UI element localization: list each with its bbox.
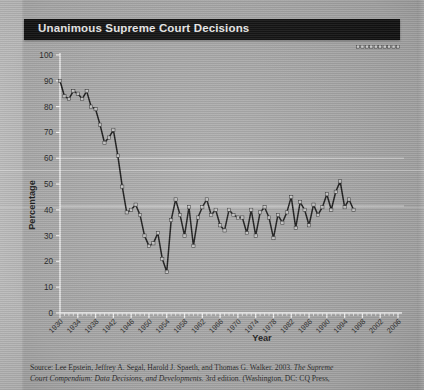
y-tick-label: 80 [44,103,54,112]
x-tick-label: 1990 [314,317,332,335]
source-line-1-italic: The Supreme [294,363,334,372]
page-right-edge [417,0,424,390]
source-line-2: Court Compendium: Data Decisions, and De… [30,374,402,385]
x-tick-label: 1938 [82,317,100,335]
x-tick-label: 1934 [65,317,83,335]
x-tick-label: 1982 [278,317,296,335]
x-tick-label: 2002 [367,317,385,335]
x-tick-label: 1954 [154,317,172,335]
figure-title-bar: Unanimous Supreme Court Decisions [24,19,400,40]
x-axis-tick-labels: 1930193419381942194619501954195819621966… [47,317,403,335]
chart-axes [60,53,402,313]
y-tick-label: 40 [44,206,54,215]
x-tick-label: 1986 [296,317,314,335]
source-line-1-text: Source: Lee Epstein, Jeffrey A. Segal, H… [30,363,294,372]
x-tick-label: 1946 [118,317,136,335]
x-tick-label: 2006 [385,317,403,335]
y-tick-label: 100 [39,51,53,60]
x-tick-label: 1950 [136,317,154,335]
source-line-2-text: 3rd edition. (Washington, DC: CQ Press, [204,374,330,383]
y-axis-tick-labels: 0102030405060708090100 [39,51,53,318]
y-tick-label: 70 [44,128,54,137]
x-axis-title: Year [252,333,272,343]
source-line-1: Source: Lee Epstein, Jeffrey A. Segal, H… [30,363,402,374]
x-tick-label: 1958 [171,317,189,335]
x-tick-label: 1962 [189,317,207,335]
x-tick-label: 1998 [349,317,367,335]
y-axis-title: Percentage [27,180,37,230]
data-point-markers [58,45,399,273]
y-tick-label: 60 [44,154,54,163]
source-line-2-italic: Court Compendium: Data Decisions, and De… [30,374,204,383]
figure-title: Unanimous Supreme Court Decisions [38,22,249,34]
x-tick-label: 1942 [100,317,118,335]
y-tick-label: 0 [48,309,53,318]
y-tick-label: 30 [44,232,54,241]
x-tick-label: 1994 [332,317,350,335]
y-tick-label: 10 [44,283,54,292]
chart-gridlines [60,158,404,206]
y-tick-label: 90 [44,77,54,86]
source-note: Source: Lee Epstein, Jeffrey A. Segal, H… [30,363,402,384]
x-tick-label: 1970 [225,317,243,335]
page-left-margin [0,0,22,390]
x-tick-label: 1930 [47,317,65,335]
x-tick-label: 1966 [207,317,225,335]
chart-figure: 0102030405060708090100 19301934193819421… [24,45,406,345]
y-tick-label: 20 [44,257,54,266]
line-chart: 0102030405060708090100 19301934193819421… [24,45,406,345]
y-tick-label: 50 [44,180,54,189]
data-series-unanimous-decisions [60,81,354,272]
